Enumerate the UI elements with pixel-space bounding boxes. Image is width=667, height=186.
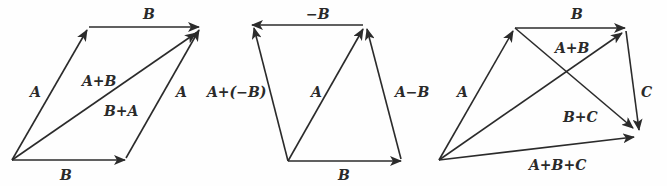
vector-A-middle [288, 29, 363, 161]
vector-diagram-figure: B A A+B B+A A B −B A+(−B) A A−B B [0, 0, 667, 186]
label-right-A: A [174, 84, 187, 100]
panel-three-vector-addition: B A A+B B+C C A+B+C [439, 6, 652, 173]
label-top-B: B [570, 6, 583, 22]
vector-A-left [12, 30, 87, 160]
label-AplusB: A+B [80, 73, 117, 89]
label-bottom-B: B [337, 167, 350, 183]
label-AplusBplusC: A+B+C [527, 157, 586, 173]
label-AplusNegB: A+(−B) [205, 84, 266, 100]
label-right-C: C [641, 84, 652, 100]
label-negB: −B [306, 6, 330, 22]
label-AplusB: A+B [553, 40, 590, 56]
vector-A [439, 31, 513, 160]
vector-C [626, 31, 639, 130]
vector-diagram-svg: B A A+B B+A A B −B A+(−B) A A−B B [0, 0, 667, 186]
panel-addition-parallelogram: B A A+B B+A A B [12, 6, 199, 183]
label-middle-A: A [309, 84, 322, 100]
label-left-A: A [28, 84, 41, 100]
label-AminusB: A−B [393, 84, 430, 100]
label-bottom-B: B [59, 167, 72, 183]
panel-subtraction: −B A+(−B) A A−B B [205, 6, 430, 183]
label-BplusC: B+C [562, 109, 598, 125]
vector-A-right [126, 30, 199, 158]
label-top-B: B [142, 6, 155, 22]
label-BplusA: B+A [103, 103, 139, 119]
label-left-A: A [455, 84, 468, 100]
